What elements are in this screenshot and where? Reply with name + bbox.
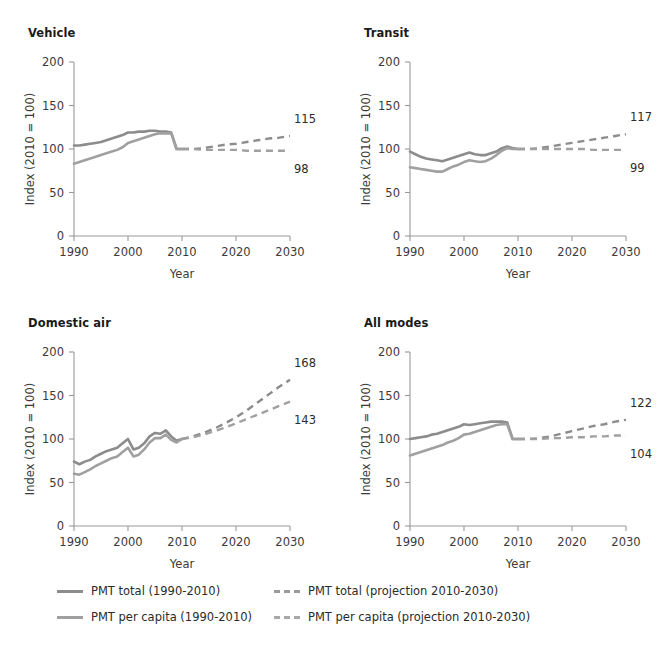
y-axis-title: Index (2010 = 100) — [23, 383, 37, 495]
y-tick-label: 200 — [42, 345, 64, 359]
series-line — [518, 436, 626, 439]
y-axis-title: Index (2010 = 100) — [359, 383, 373, 495]
series-end-label: 104 — [630, 447, 652, 461]
plot-area: 05010015020019902000201020202030YearInde… — [0, 290, 335, 580]
y-tick-label: 0 — [57, 519, 64, 533]
legend-solid-line-icon — [57, 616, 83, 619]
y-tick-label: 50 — [49, 186, 64, 200]
series-line — [182, 136, 290, 149]
y-tick-label: 150 — [378, 99, 400, 113]
x-tick-label: 2010 — [167, 245, 196, 259]
x-axis-title: Year — [505, 557, 531, 571]
y-axis-title: Index (2010 = 100) — [359, 93, 373, 205]
y-tick-label: 150 — [378, 389, 400, 403]
series-end-label: 117 — [630, 110, 652, 124]
legend-item[interactable]: PMT per capita (1990-2010) — [57, 604, 252, 630]
series-end-label: 115 — [294, 112, 316, 126]
x-tick-label: 2000 — [449, 245, 478, 259]
series-line — [74, 133, 182, 163]
legend-dashed-line-icon — [274, 590, 300, 593]
series-line — [182, 149, 290, 151]
legend-label: PMT per capita (1990-2010) — [91, 610, 252, 624]
legend-dashed-line-icon — [274, 616, 300, 619]
x-tick-label: 2020 — [221, 245, 250, 259]
legend-column-projection: PMT total (projection 2010-2030)PMT per … — [274, 578, 530, 630]
x-tick-label: 1990 — [59, 535, 88, 549]
plot-area: 05010015020019902000201020202030YearInde… — [336, 290, 671, 580]
plot-area: 05010015020019902000201020202030YearInde… — [0, 0, 335, 290]
y-tick-label: 0 — [393, 229, 400, 243]
x-tick-label: 2030 — [611, 535, 640, 549]
figure-panel-grid: Vehicle05010015020019902000201020202030Y… — [0, 0, 671, 648]
series-line — [182, 380, 290, 439]
x-tick-label: 2010 — [503, 535, 532, 549]
series-line — [518, 134, 626, 149]
chart-panel-all-modes: All modes0501001502001990200020102020203… — [336, 290, 671, 580]
y-tick-label: 150 — [42, 99, 64, 113]
x-tick-label: 1990 — [395, 535, 424, 549]
y-tick-label: 200 — [378, 55, 400, 69]
y-tick-label: 50 — [49, 476, 64, 490]
y-tick-label: 100 — [378, 142, 400, 156]
legend-label: PMT total (projection 2010-2030) — [308, 584, 498, 598]
y-tick-label: 50 — [385, 186, 400, 200]
series-end-label: 98 — [294, 162, 309, 176]
x-tick-label: 2030 — [275, 245, 304, 259]
chart-panel-domestic-air: Domestic air0501001502001990200020102020… — [0, 290, 335, 580]
x-axis-title: Year — [169, 557, 195, 571]
x-tick-label: 2020 — [557, 535, 586, 549]
y-tick-label: 200 — [42, 55, 64, 69]
series-line — [410, 146, 518, 161]
x-axis-title: Year — [169, 267, 195, 281]
legend-item[interactable]: PMT total (projection 2010-2030) — [274, 578, 530, 604]
y-tick-label: 200 — [378, 345, 400, 359]
legend-column-historical: PMT total (1990-2010)PMT per capita (199… — [57, 578, 252, 630]
legend-item[interactable]: PMT per capita (projection 2010-2030) — [274, 604, 530, 630]
legend-item[interactable]: PMT total (1990-2010) — [57, 578, 252, 604]
y-tick-label: 0 — [393, 519, 400, 533]
series-line — [410, 424, 518, 455]
series-end-label: 168 — [294, 356, 316, 370]
series-end-label: 143 — [294, 413, 316, 427]
y-tick-label: 100 — [42, 432, 64, 446]
chart-panel-transit: Transit05010015020019902000201020202030Y… — [336, 0, 671, 290]
x-tick-label: 2000 — [113, 535, 142, 549]
x-tick-label: 1990 — [395, 245, 424, 259]
series-line — [182, 402, 290, 439]
chart-panel-vehicle: Vehicle05010015020019902000201020202030Y… — [0, 0, 335, 290]
x-tick-label: 2010 — [167, 535, 196, 549]
y-tick-label: 100 — [42, 142, 64, 156]
y-tick-label: 150 — [42, 389, 64, 403]
y-tick-label: 50 — [385, 476, 400, 490]
series-line — [518, 149, 626, 150]
x-tick-label: 2010 — [503, 245, 532, 259]
series-end-label: 122 — [630, 396, 652, 410]
x-tick-label: 2000 — [113, 245, 142, 259]
x-tick-label: 2020 — [557, 245, 586, 259]
legend-label: PMT per capita (projection 2010-2030) — [308, 610, 530, 624]
x-tick-label: 2030 — [275, 535, 304, 549]
legend-label: PMT total (1990-2010) — [91, 584, 220, 598]
y-tick-label: 0 — [57, 229, 64, 243]
y-tick-label: 100 — [378, 432, 400, 446]
x-tick-label: 2000 — [449, 535, 478, 549]
y-axis-title: Index (2010 = 100) — [23, 93, 37, 205]
chart-legend: PMT total (1990-2010)PMT per capita (199… — [0, 578, 671, 640]
x-axis-title: Year — [505, 267, 531, 281]
x-tick-label: 2020 — [221, 535, 250, 549]
x-tick-label: 2030 — [611, 245, 640, 259]
legend-solid-line-icon — [57, 590, 83, 593]
x-tick-label: 1990 — [59, 245, 88, 259]
series-end-label: 99 — [630, 161, 645, 175]
plot-area: 05010015020019902000201020202030YearInde… — [336, 0, 671, 290]
